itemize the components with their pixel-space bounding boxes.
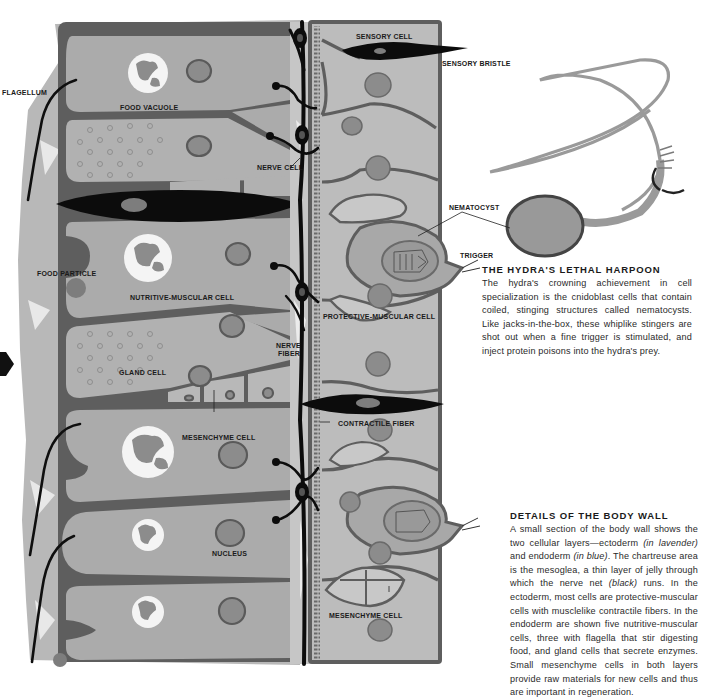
label-gland-cell: GLAND CELL (119, 369, 166, 376)
body-wall-body: A small section of the body wall shows t… (510, 523, 698, 700)
endoderm-color-note: (in blue) (573, 551, 607, 561)
nematocyst-capsule (382, 241, 438, 281)
label-food-vacuole: FOOD VACUOLE (120, 104, 178, 111)
body-text: and endoderm (510, 551, 573, 561)
label-nerve-fiber-1: NERVE (276, 342, 301, 349)
label-trigger: TRIGGER (460, 252, 493, 259)
body-text: runs. In the ectoderm, most cells are pr… (510, 578, 698, 697)
label-sensory-bristle: SENSORY BRISTLE (442, 60, 511, 67)
endoderm-layer (58, 22, 298, 662)
harpoon-body: The hydra's crowning achievement in cell… (482, 277, 692, 359)
body-wall-section: DETAILS OF THE BODY WALL A small section… (510, 510, 698, 700)
direction-arrow-icon (0, 352, 14, 376)
label-flagellum: FLAGELLUM (2, 89, 47, 96)
nerve-color-note: (black) (609, 578, 637, 588)
label-nematocyst: NEMATOCYST (449, 204, 499, 211)
contractile-fiber-strip (314, 26, 320, 660)
harpoon-title: THE HYDRA'S LETHAL HARPOON (482, 264, 692, 275)
label-food-particle: FOOD PARTICLE (37, 270, 96, 277)
label-mesenchyme-cell-left: MESENCHYME CELL (182, 434, 255, 441)
harpoon-section: THE HYDRA'S LETHAL HARPOON The hydra's c… (482, 264, 692, 359)
food-particle (66, 278, 86, 298)
label-nutritive-muscular-cell: NUTRITIVE-MUSCULAR CELL (130, 294, 234, 301)
label-sensory-cell: SENSORY CELL (356, 33, 412, 40)
trigger-hair (462, 260, 480, 272)
label-nerve-fiber-2: FIBER (278, 350, 300, 357)
label-nerve-cell: NERVE CELL (257, 164, 303, 171)
body-wall-title: DETAILS OF THE BODY WALL (510, 510, 698, 521)
ectoderm-layer (308, 20, 480, 664)
label-protective-muscular-cell: PROTECTIVE-MUSCULAR CELL (323, 313, 435, 320)
ectoderm-color-note: (in lavender) (643, 538, 698, 548)
label-nucleus: NUCLEUS (212, 550, 247, 557)
discharged-nematocyst (490, 60, 684, 256)
label-mesenchyme-cell-right: MESENCHYME CELL (329, 612, 402, 619)
label-contractile-fiber: CONTRACTILE FIBER (338, 420, 415, 427)
nematocyst-capsule-detail (507, 196, 583, 256)
